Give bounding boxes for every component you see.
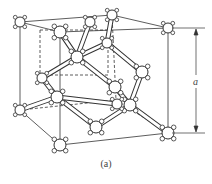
atoms — [13, 8, 176, 153]
atom — [13, 103, 26, 116]
atom — [52, 137, 68, 153]
atom — [35, 71, 48, 84]
atom — [110, 97, 123, 110]
atom — [105, 8, 118, 21]
atom — [100, 36, 113, 49]
atom — [122, 97, 138, 113]
figure-caption: (a) — [0, 158, 212, 169]
dimension-arrow — [172, 28, 205, 133]
atom — [83, 15, 96, 28]
atom — [107, 79, 123, 95]
diamond-cubic-diagram — [0, 0, 212, 184]
atom — [49, 89, 65, 105]
atom — [134, 64, 150, 80]
atom — [88, 119, 104, 135]
atom — [13, 15, 26, 28]
atom — [52, 24, 68, 40]
atom — [69, 49, 85, 65]
lattice-constant-label: a — [193, 76, 198, 87]
